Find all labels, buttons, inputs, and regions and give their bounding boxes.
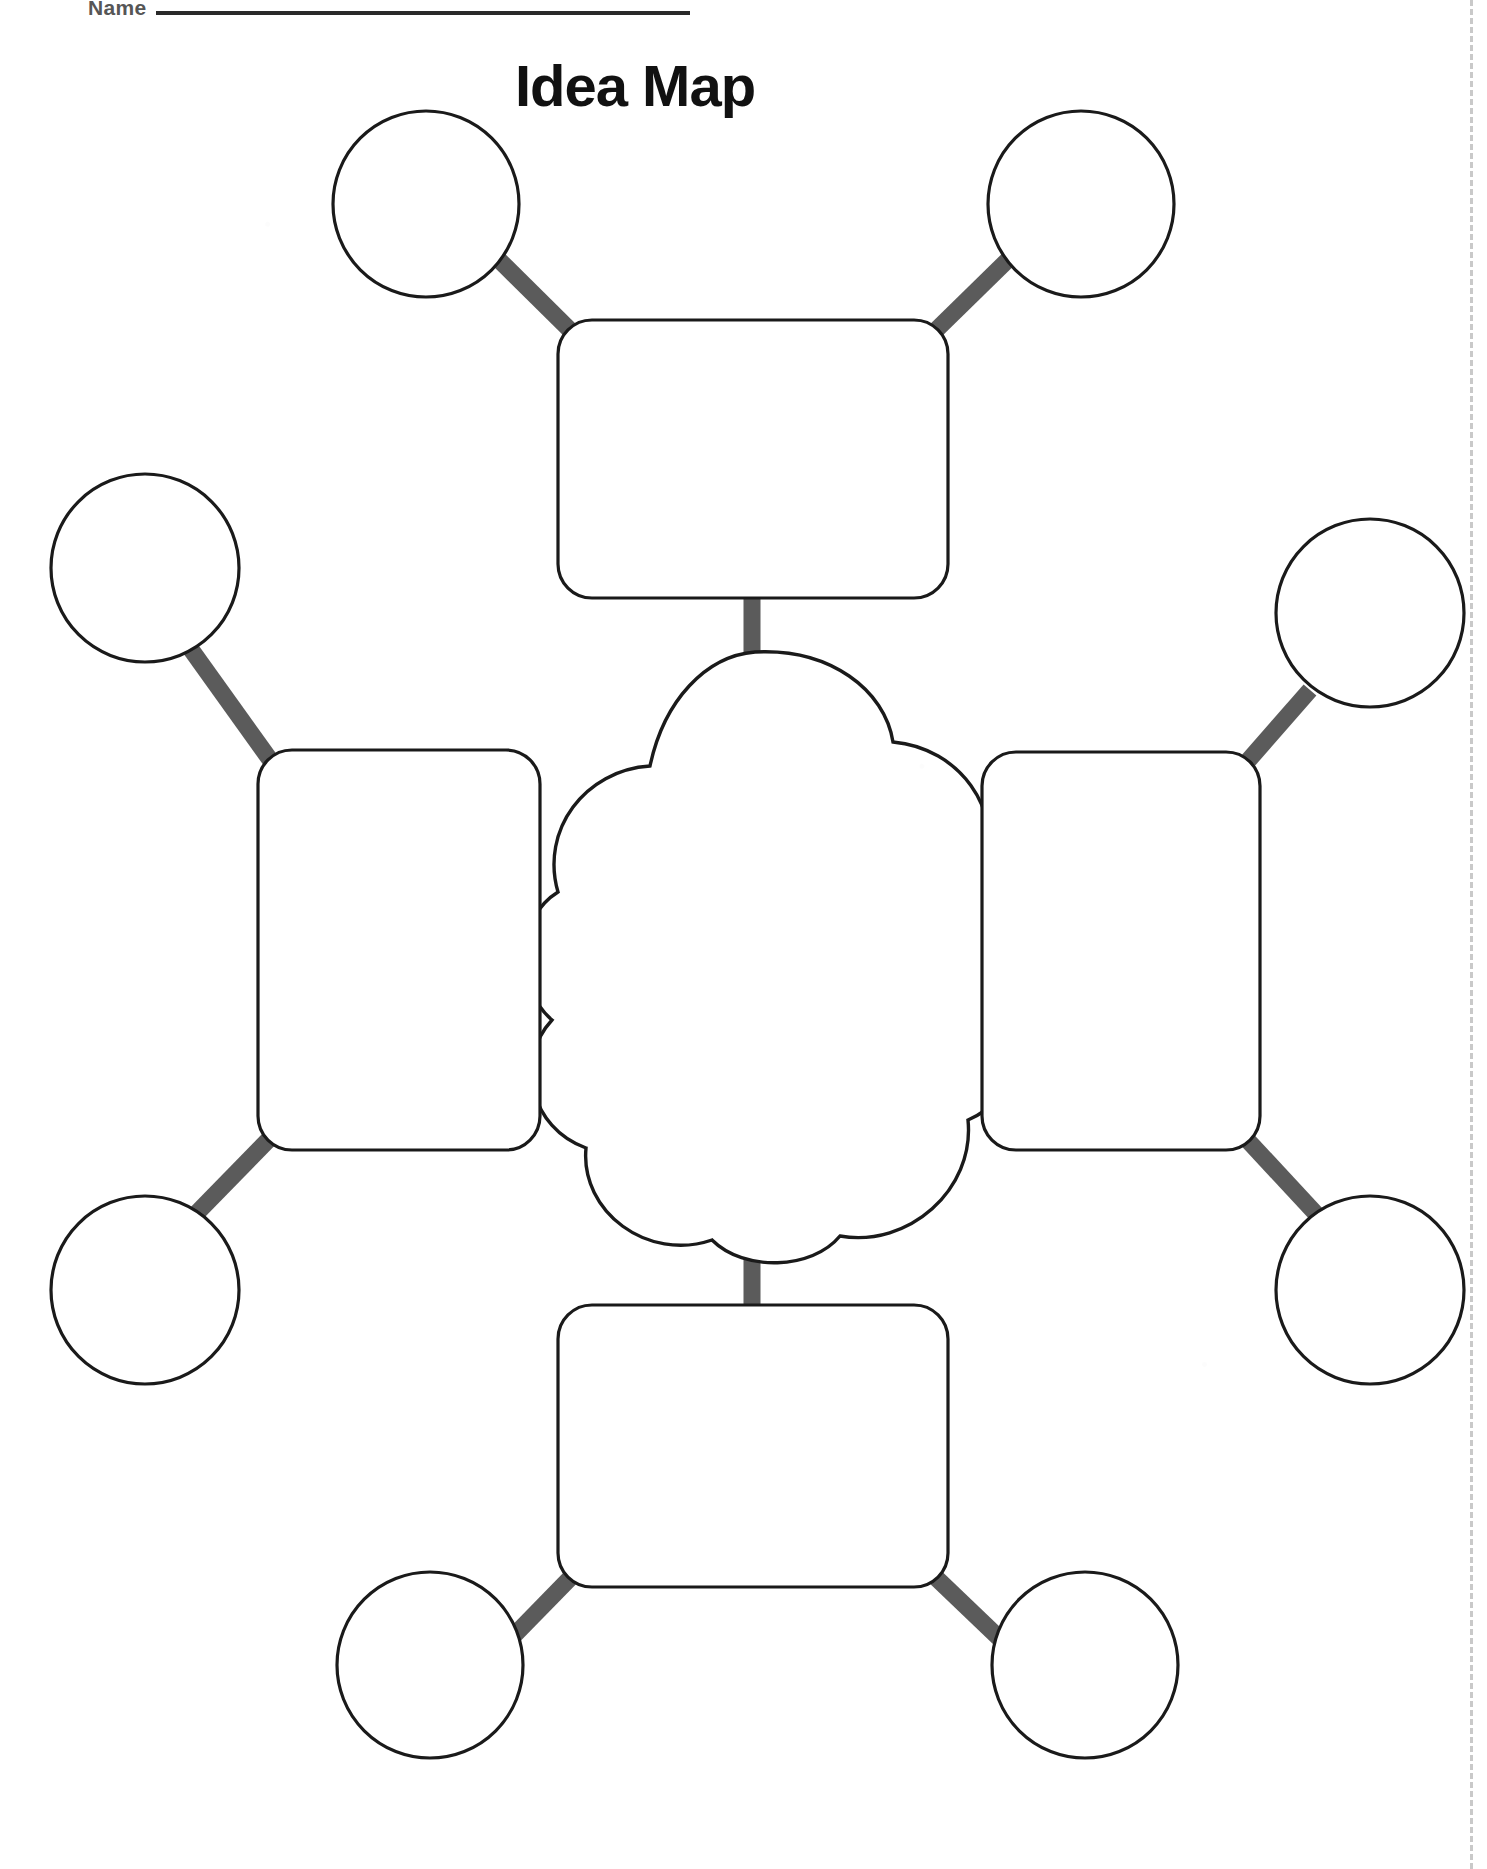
cloud-outline: [524, 652, 1019, 1263]
idea-map-diagram: [0, 0, 1487, 1869]
branch-box-right[interactable]: [982, 752, 1260, 1150]
branch-box-bottom[interactable]: [558, 1305, 948, 1587]
worksheet-page: Name Idea Map: [0, 0, 1487, 1869]
connector-right-box-to-right-lower-circle: [1240, 1132, 1318, 1216]
branch-box-top[interactable]: [558, 320, 948, 598]
leaf-circle-left-upper[interactable]: [51, 474, 239, 662]
leaf-circle-right-lower[interactable]: [1276, 1196, 1464, 1384]
leaf-circle-top-right[interactable]: [988, 111, 1174, 297]
leaf-circle-left-lower[interactable]: [51, 1196, 239, 1384]
leaf-circle-bottom-right[interactable]: [992, 1572, 1178, 1758]
leaf-circle-top-left[interactable]: [333, 111, 519, 297]
connector-right-box-to-right-upper-circle: [1240, 690, 1310, 770]
leaf-circle-right-upper[interactable]: [1276, 519, 1464, 707]
connector-left-box-to-left-lower-circle: [192, 1132, 276, 1218]
leaf-circle-bottom-left[interactable]: [337, 1572, 523, 1758]
branch-box-left[interactable]: [258, 750, 540, 1150]
center-cloud-node[interactable]: [524, 652, 1019, 1263]
connector-left-box-to-left-upper-circle: [190, 648, 276, 768]
